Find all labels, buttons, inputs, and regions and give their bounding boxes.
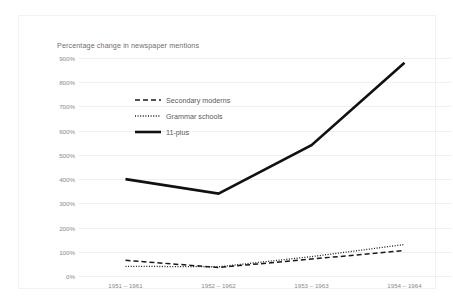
y-axis-tick-label: 600% — [35, 127, 75, 134]
y-axis-labels: 900%800%700%600%500%400%300%200%100%0% — [33, 58, 75, 276]
y-axis-tick-label: 800% — [35, 79, 75, 86]
gridline — [79, 276, 451, 277]
y-axis-tick-label: 200% — [35, 224, 75, 231]
dotted-line-icon — [135, 111, 161, 121]
legend-item-grammar-schools[interactable]: Grammar schools — [135, 108, 305, 124]
dashed-line-icon — [135, 95, 161, 105]
chart-title: Percentage change in newspaper mentions — [57, 41, 199, 50]
y-axis-tick-label: 100% — [35, 248, 75, 255]
y-axis-tick-label: 900% — [35, 55, 75, 62]
x-axis-tick-label: 1952 – 1962 — [201, 282, 235, 289]
x-axis-tick-label: 1951 – 1961 — [108, 282, 142, 289]
legend-item-secondary-moderns[interactable]: Secondary moderns — [135, 92, 305, 108]
legend-item-label: Grammar schools — [166, 112, 223, 121]
x-axis-tick-label: 1954 – 1964 — [387, 282, 421, 289]
plot-area — [79, 58, 451, 276]
legend-item-11-plus[interactable]: 11-plus — [135, 124, 305, 140]
y-axis-tick-label: 500% — [35, 151, 75, 158]
chart-card: Percentage change in newspaper mentions … — [18, 15, 436, 289]
y-axis-tick-label: 0% — [35, 273, 75, 280]
x-axis-tick-label: 1953 – 1963 — [294, 282, 328, 289]
legend-item-label: 11-plus — [166, 128, 189, 137]
series-lines — [79, 58, 451, 276]
legend-item-label: Secondary moderns — [166, 96, 230, 105]
y-axis-tick-label: 400% — [35, 176, 75, 183]
y-axis-tick-label: 300% — [35, 200, 75, 207]
solid-line-icon — [135, 127, 161, 137]
y-axis-tick-label: 700% — [35, 103, 75, 110]
series-line-secondary-moderns — [126, 251, 405, 268]
chart-legend: Secondary modernsGrammar schools11-plus — [135, 92, 305, 140]
x-axis-labels: 1951 – 19611952 – 19621953 – 19631954 – … — [79, 282, 451, 296]
